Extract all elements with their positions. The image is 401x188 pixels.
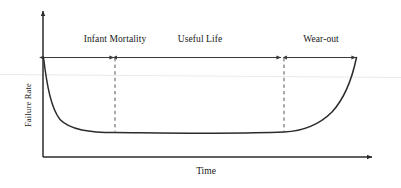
chart-canvas xyxy=(0,0,401,188)
phase-label-wear-out: Wear-out xyxy=(286,33,356,45)
x-axis-label: Time xyxy=(176,165,236,177)
y-axis-label: Failure Rate xyxy=(22,75,34,135)
phase-label-useful-life: Useful Life xyxy=(130,33,270,45)
scan-artifact-line xyxy=(0,75,401,78)
failure-rate-curve xyxy=(44,58,357,134)
bathtub-curve-figure: Infant Mortality Useful Life Wear-out Fa… xyxy=(0,0,401,188)
